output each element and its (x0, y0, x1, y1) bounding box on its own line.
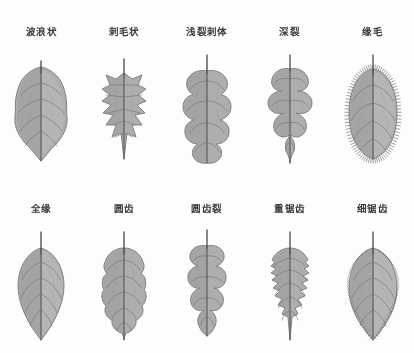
leaf-doubly-serrate-icon (250, 220, 330, 348)
leaf-finely-serrate-icon (333, 220, 413, 348)
specimen-cell-10[interactable]: 细锯齿 (333, 177, 413, 353)
specimen-cell-3[interactable]: 浅裂刺体 (167, 0, 247, 176)
specimen-label-10: 细锯齿 (357, 199, 388, 219)
specimen-cell-7[interactable]: 圆齿 (84, 177, 164, 353)
specimen-cell-1[interactable]: 波浪状 (1, 0, 81, 176)
specimen-label-1: 波浪状 (26, 22, 57, 42)
specimen-label-3: 浅裂刺体 (186, 22, 228, 42)
specimen-label-2: 刺毛状 (109, 22, 140, 42)
leaf-crenate-icon (84, 220, 164, 348)
leaf-entire-icon (1, 220, 81, 348)
specimen-label-7: 圆齿 (114, 199, 135, 219)
leaf-crenate-lobed-icon (167, 220, 247, 348)
specimen-cell-6[interactable]: 全缘 (1, 177, 81, 353)
specimen-cell-4[interactable]: 深裂 (250, 0, 330, 176)
specimen-label-6: 全缘 (31, 199, 52, 219)
leaf-ciliate-icon (333, 43, 413, 171)
leaf-margin-plate: 波浪状 (0, 0, 414, 353)
leaf-shallow-lobed-icon (167, 43, 247, 171)
specimen-label-5: 缘毛 (362, 22, 383, 42)
specimen-cell-5[interactable]: 缘毛 (333, 0, 413, 176)
leaf-deep-lobed-icon (250, 43, 330, 171)
leaf-undulate-icon (1, 43, 81, 171)
specimen-cell-9[interactable]: 重锯齿 (250, 177, 330, 353)
leaf-spinose-icon (84, 43, 164, 171)
specimen-label-4: 深裂 (279, 22, 300, 42)
specimen-cell-8[interactable]: 圆齿裂 (167, 177, 247, 353)
specimen-label-8: 圆齿裂 (191, 199, 222, 219)
specimen-row-bottom: 全缘 (0, 177, 414, 353)
specimen-row-top: 波浪状 (0, 0, 414, 176)
specimen-label-9: 重锯齿 (274, 199, 305, 219)
specimen-cell-2[interactable]: 刺毛状 (84, 0, 164, 176)
